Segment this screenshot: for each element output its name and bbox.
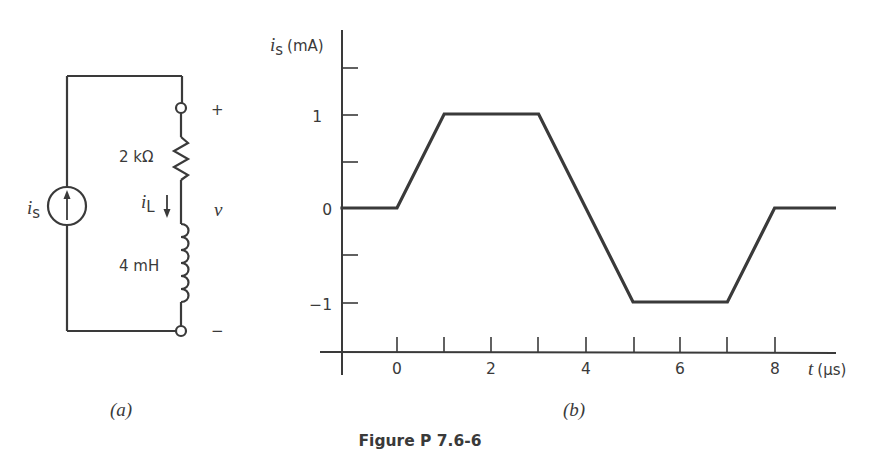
terminal-bottom-icon (176, 326, 186, 336)
current-label: iL (141, 191, 155, 216)
minus-sign: − (211, 322, 224, 340)
panel-b-label: (b) (563, 399, 585, 421)
figure-canvas: is 2 kΩ iL 4 mH + v − (0, 0, 876, 462)
y-tick-label-minus-1: −1 (309, 296, 332, 314)
inductor-label: 4 mH (119, 257, 159, 275)
terminal-top-icon (176, 103, 186, 113)
resistor-label: 2 kΩ (119, 148, 153, 166)
current-waveform (340, 114, 836, 302)
y-tick-label-0: 0 (322, 201, 332, 219)
x-tick-label-0: 0 (392, 360, 402, 378)
chart: 1 0 −1 0 2 4 6 8 is(mA) t(µs) (270, 30, 846, 379)
y-ticks (342, 68, 358, 303)
plus-sign: + (211, 101, 224, 119)
x-tick-label-6: 6 (675, 360, 685, 378)
y-tick-label-1: 1 (312, 108, 322, 126)
x-tick-label-8: 8 (770, 360, 780, 378)
inductor-icon (181, 224, 189, 302)
figure-caption: Figure P 7.6-6 (358, 432, 481, 450)
x-axis (320, 352, 836, 353)
panel-a-label: (a) (110, 399, 132, 421)
voltage-label: v (214, 199, 223, 220)
resistor-icon (174, 137, 188, 180)
current-direction-arrow-icon (164, 209, 171, 218)
x-axis-label: t(µs) (808, 358, 846, 379)
source-label: is (27, 197, 40, 222)
x-ticks (397, 337, 775, 352)
x-tick-label-4: 4 (581, 360, 591, 378)
x-tick-label-2: 2 (486, 360, 496, 378)
y-axis-label: is(mA) (270, 34, 324, 59)
